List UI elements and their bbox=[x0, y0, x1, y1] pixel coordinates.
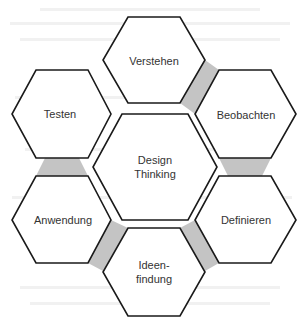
design-thinking-diagram: Verstehen Beobachten Definieren Ideen- f… bbox=[0, 0, 306, 330]
connector-anwendung-testen bbox=[36, 158, 88, 176]
step-label-anwendung: Anwendung bbox=[34, 213, 92, 227]
step-label-beobachten: Beobachten bbox=[217, 108, 276, 122]
step-label-ideenfindung: Ideen- findung bbox=[136, 258, 172, 286]
step-label-definieren: Definieren bbox=[221, 213, 271, 227]
step-label-ideenfindung-line2: findung bbox=[136, 272, 172, 286]
step-label-verstehen: Verstehen bbox=[129, 54, 179, 68]
center-label: Design Thinking bbox=[134, 153, 176, 181]
center-label-line1: Design bbox=[134, 153, 176, 167]
center-label-line2: Thinking bbox=[134, 167, 176, 181]
connector-beobachten-definieren bbox=[219, 158, 271, 176]
step-label-ideenfindung-line1: Ideen- bbox=[136, 258, 172, 272]
step-label-testen: Testen bbox=[44, 107, 76, 121]
